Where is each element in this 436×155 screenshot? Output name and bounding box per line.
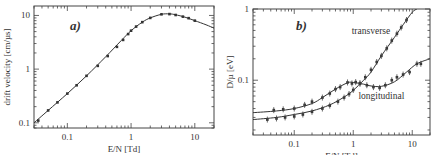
plot-frame (34, 6, 214, 128)
data-point (160, 13, 163, 16)
data-point (135, 25, 138, 28)
x-tick-label: 1 (129, 132, 134, 142)
series-annotation: longitudinal (358, 91, 404, 101)
data-point (56, 101, 59, 104)
panel-label: a) (70, 18, 81, 33)
data-point (149, 17, 152, 20)
data-point (182, 15, 185, 18)
series-line (253, 9, 417, 120)
data-point (187, 17, 190, 20)
panel-b-diffusion-plot: 0.11100.11E/N [Td]D/µ [eV]b)transverselo… (225, 4, 430, 155)
data-point (122, 39, 125, 42)
data-point (66, 92, 69, 95)
data-point (174, 14, 177, 17)
x-tick-label: 0.1 (62, 132, 73, 142)
series-line (34, 14, 214, 123)
y-axis-label: D/µ [eV] (225, 56, 235, 89)
axis-ticks (34, 6, 214, 128)
x-axis-label: E/N [Td] (325, 151, 358, 155)
panel-label: b) (296, 18, 307, 33)
data-point (75, 84, 78, 87)
data-point (96, 65, 99, 68)
data-point (130, 29, 133, 32)
y-tick-label: 1 (245, 4, 250, 14)
x-axis-label: E/N [Td] (108, 144, 141, 154)
data-point (106, 55, 109, 58)
x-tick-label: 1 (351, 139, 356, 149)
series-annotation: transverse (352, 26, 391, 36)
x-tick-label: 0.1 (289, 139, 300, 149)
figure: 0.11100.1110E/N [Td]drift velocity [cm/µ… (0, 0, 436, 155)
y-axis-label: drift velocity [cm/µs] (2, 28, 12, 105)
y-tick-label: 0.1 (19, 118, 30, 128)
x-tick-label: 10 (190, 132, 200, 142)
data-point (194, 19, 197, 22)
y-tick-label: 10 (21, 10, 31, 20)
data-point (85, 75, 88, 78)
data-point (47, 109, 50, 112)
data-point (168, 13, 171, 16)
y-tick-label: 0.1 (238, 75, 249, 85)
series-line (253, 59, 430, 113)
series-group (34, 13, 214, 123)
data-point (141, 21, 144, 24)
x-tick-label: 10 (408, 139, 418, 149)
y-tick-label: 1 (26, 64, 31, 74)
data-point (116, 46, 119, 49)
series-group (253, 9, 430, 123)
data-point (127, 33, 130, 36)
data-point (37, 119, 40, 122)
panel-a-drift-velocity-plot: 0.11100.1110E/N [Td]drift velocity [cm/µ… (2, 6, 214, 154)
